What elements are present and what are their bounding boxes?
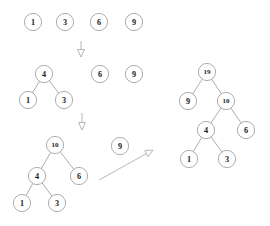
transition-arrow-stage1-to-stage2 [78,41,85,57]
tree-node-6[interactable]: 6 [91,65,108,82]
transition-arrow-stage2-to-stage3 [79,113,86,130]
node-label: 6 [244,126,248,135]
node-label: 9 [118,142,122,151]
node-label: 9 [132,70,136,79]
node-label: 4 [42,70,46,79]
tree-edge [211,137,222,152]
node-label: 1 [26,96,30,105]
tree-node-3[interactable]: 3 [55,91,72,108]
tree-node-1[interactable]: 1 [13,194,30,211]
stage-nodes-tree-rooted-at-10: 104613 [13,136,87,211]
tree-edge [26,184,33,196]
binary-tree-diagram: 1369413691046139199104613 [0,0,270,226]
tree-edge [231,108,241,123]
stage-nodes-initial-loose-nodes: 1369 [24,13,142,30]
tree-node-1[interactable]: 1 [180,150,197,167]
node-label: 9 [186,97,190,106]
tree-node-4[interactable]: 4 [35,65,52,82]
node-label: 10 [223,97,231,105]
tree-edge [42,183,52,196]
node-label: 6 [98,70,102,79]
tree-edge [33,81,40,92]
tree-node-9[interactable]: 9 [111,137,128,154]
tree-node-6[interactable]: 6 [70,167,87,184]
node-label: 6 [77,172,81,181]
arrow-head [145,150,153,157]
stage-edges-final-tree-rooted-at-19 [193,79,241,152]
node-label: 1 [187,155,191,164]
tree-edge [60,152,73,169]
node-label: 1 [31,18,35,27]
node-label: 3 [62,96,66,105]
tree-node-10[interactable]: 10 [217,92,234,109]
node-label: 10 [52,141,60,149]
tree-edge [193,79,203,94]
tree-node-9[interactable]: 9 [125,13,142,30]
tree-edge [193,137,201,151]
diagram-canvas: 1369413691046139199104613 [0,0,270,226]
tree-edge [49,81,59,93]
stage-nodes-final-tree-rooted-at-19: 199104613 [179,63,254,167]
node-label: 3 [55,199,59,208]
arrow-head [79,123,86,131]
tree-node-6[interactable]: 6 [237,121,254,138]
tree-node-3[interactable]: 3 [48,194,65,211]
arrow-head [78,50,85,58]
stage-nodes-loose-node-9: 9 [111,137,128,154]
arrow-shaft [99,154,146,180]
tree-node-9[interactable]: 9 [179,92,196,109]
tree-edge [41,152,50,168]
node-label: 6 [97,18,101,27]
node-label: 3 [225,155,229,164]
tree-node-9[interactable]: 9 [125,65,142,82]
node-label: 4 [35,172,39,181]
tree-node-1[interactable]: 1 [19,91,36,108]
tree-node-3[interactable]: 3 [56,13,73,30]
tree-node-10[interactable]: 10 [46,136,63,153]
node-label: 3 [63,18,67,27]
tree-node-6[interactable]: 6 [90,13,107,30]
tree-node-4[interactable]: 4 [28,167,45,184]
tree-edge [211,108,221,123]
tree-node-1[interactable]: 1 [24,13,41,30]
node-label: 4 [204,126,208,135]
transition-arrow-stage3-to-final [99,150,153,180]
tree-node-19[interactable]: 19 [198,63,215,80]
node-label: 1 [20,199,24,208]
tree-node-4[interactable]: 4 [197,121,214,138]
tree-edge [212,79,222,94]
node-label: 19 [204,68,212,76]
node-label: 9 [132,18,136,27]
stage-nodes-subtree-4-and-loose-nodes: 41369 [19,65,142,108]
tree-node-3[interactable]: 3 [218,150,235,167]
